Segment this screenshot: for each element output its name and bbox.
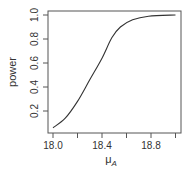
chart-svg: 0.20.40.60.81.0 18.018.418.8 power μA — [0, 0, 188, 175]
y-tick-label: 1.0 — [29, 8, 40, 22]
y-axis: 0.20.40.60.81.0 — [29, 8, 48, 118]
x-tick-label: 18.0 — [43, 140, 63, 151]
power-curve-line — [53, 15, 176, 128]
y-tick-label: 0.8 — [29, 32, 40, 46]
x-tick-label: 18.4 — [92, 140, 112, 151]
x-axis: 18.018.418.8 — [43, 133, 175, 151]
x-axis-label: μA — [105, 153, 117, 168]
power-curve-chart: 0.20.40.60.81.0 18.018.418.8 power μA — [0, 0, 188, 175]
x-tick-label: 18.8 — [141, 140, 161, 151]
y-tick-label: 0.2 — [29, 104, 40, 118]
y-tick-label: 0.6 — [29, 56, 40, 70]
y-tick-label: 0.4 — [29, 80, 40, 94]
y-axis-label: power — [6, 57, 18, 87]
